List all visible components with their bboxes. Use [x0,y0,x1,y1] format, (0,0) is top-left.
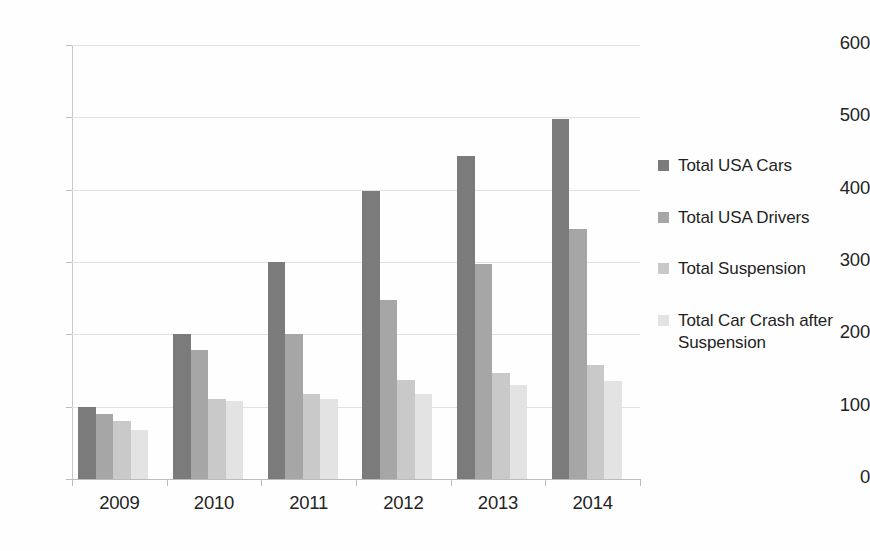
y-axis-tick-label: 100 [814,394,870,416]
bar[interactable] [226,401,244,479]
y-axis-tick-label: 0 [814,466,870,488]
x-axis-tick-label-2012: 2012 [356,492,451,514]
bar[interactable] [320,399,338,479]
x-tick-mark [640,479,641,486]
bar[interactable] [78,407,96,479]
legend-item[interactable]: Total USA Cars [658,155,864,178]
bar-group-2010 [173,45,243,479]
bar[interactable] [380,300,398,479]
x-tick-mark [72,479,73,486]
bar[interactable] [303,394,321,479]
y-axis-tick-label: 500 [814,104,870,126]
bar[interactable] [457,156,475,479]
legend-swatch-icon [658,315,669,326]
legend-item[interactable]: Total Suspension [658,258,864,281]
x-tick-mark [545,479,546,486]
bar-group-2009 [78,45,148,479]
bar-group-2012 [362,45,432,479]
legend-label: Total Car Crash after Suspension [678,310,864,355]
x-tick-mark [261,479,262,486]
bar[interactable] [569,229,587,479]
bar-group-2013 [457,45,527,479]
bar-group-2014 [552,45,622,479]
bar[interactable] [191,350,209,479]
y-axis-tick-label: 600 [814,32,870,54]
bar[interactable] [173,334,191,479]
bar[interactable] [96,414,114,479]
legend-label: Total Suspension [678,258,806,281]
legend-swatch-icon [658,263,669,274]
bar[interactable] [397,380,415,479]
plot-area [72,45,640,479]
bar[interactable] [475,264,493,479]
bar[interactable] [285,334,303,479]
bar[interactable] [552,119,570,479]
bar-chart: 0100200300400500600 20092010201120122013… [0,0,870,551]
chart-legend: Total USA CarsTotal USA DriversTotal Sus… [658,155,864,384]
bar[interactable] [510,385,528,479]
bar[interactable] [492,373,510,479]
x-axis-tick-label-2014: 2014 [545,492,640,514]
bar[interactable] [362,191,380,479]
legend-label: Total USA Drivers [678,207,810,230]
bar[interactable] [131,430,149,479]
x-axis-tick-label-2011: 2011 [261,492,356,514]
bar[interactable] [415,394,433,479]
bar[interactable] [604,381,622,479]
legend-item[interactable]: Total USA Drivers [658,207,864,230]
bar[interactable] [268,262,286,479]
legend-swatch-icon [658,212,669,223]
bar-group-2011 [268,45,338,479]
x-axis-tick-label-2010: 2010 [167,492,262,514]
legend-swatch-icon [658,160,669,171]
x-axis-tick-label-2009: 2009 [72,492,167,514]
x-tick-mark [167,479,168,486]
bar[interactable] [587,365,605,479]
bar[interactable] [113,421,131,479]
legend-label: Total USA Cars [678,155,792,178]
bar[interactable] [208,399,226,479]
legend-item[interactable]: Total Car Crash after Suspension [658,310,864,355]
x-axis-tick-label-2013: 2013 [451,492,546,514]
x-tick-mark [451,479,452,486]
x-tick-mark [356,479,357,486]
